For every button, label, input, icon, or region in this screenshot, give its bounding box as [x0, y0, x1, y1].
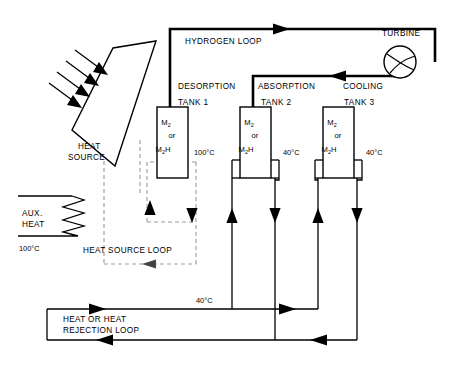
tank-3-species-bottom-suffix: H — [331, 145, 336, 154]
tank-3-contents-label: M2 or M2H — [322, 118, 342, 155]
rejection-inlet-temperature: 40°C — [196, 296, 213, 305]
svg-text:M2H: M2H — [322, 145, 337, 155]
heat-rejection-loop-label-line1: HEAT OR HEAT — [63, 315, 126, 324]
tank-1-name: TANK 1 — [178, 98, 209, 107]
heat-rejection-loop-label-line2: REJECTION LOOP — [63, 326, 140, 335]
svg-text:M2: M2 — [161, 118, 170, 128]
tank-2-contents-label: M2 or M2H — [239, 118, 259, 155]
tank-3-process-label: COOLING — [343, 82, 383, 91]
tank-1-species-bottom-suffix: H — [165, 145, 170, 154]
heat-source-label-line2: SOURCE — [68, 153, 105, 162]
tank-1-temperature: 100°C — [194, 148, 215, 157]
diagram-text-layer: HYDROGEN LOOP TURBINE DESORPTION ABSORPT… — [0, 0, 463, 370]
tank-3-species-top-sub: 2 — [334, 122, 337, 128]
tank-3-temperature: 40°C — [366, 148, 383, 157]
tank-2-name: TANK 2 — [261, 98, 292, 107]
tank-1-species-top-sub: 2 — [168, 122, 171, 128]
tank-2-conjunction: or — [252, 131, 259, 140]
aux-heat-temperature: 100°C — [19, 244, 40, 253]
tank-1-conjunction: or — [169, 131, 176, 140]
aux-heat-label-line2: HEAT — [22, 220, 45, 229]
heat-source-loop-label: HEAT SOURCE LOOP — [83, 246, 172, 255]
tank-2-temperature: 40°C — [283, 148, 300, 157]
svg-text:M2H: M2H — [239, 145, 254, 155]
tank-1-process-label: DESORPTION — [178, 82, 236, 91]
tank-2-species-top-sub: 2 — [251, 122, 254, 128]
tank-1-contents-label: M2 or M2H — [156, 118, 176, 155]
svg-text:M2: M2 — [327, 118, 336, 128]
turbine-label: TURBINE — [382, 29, 421, 38]
heat-source-label-line1: HEAT — [78, 142, 101, 151]
hydrogen-loop-label: HYDROGEN LOOP — [185, 37, 262, 46]
svg-text:M2: M2 — [244, 118, 253, 128]
tank-3-name: TANK 3 — [344, 98, 375, 107]
tank-3-conjunction: or — [335, 131, 342, 140]
aux-heat-label-line1: AUX. — [22, 209, 43, 218]
process-flow-diagram: HYDROGEN LOOP TURBINE DESORPTION ABSORPT… — [0, 0, 463, 370]
svg-text:M2H: M2H — [156, 145, 171, 155]
tank-2-species-bottom-suffix: H — [248, 145, 253, 154]
tank-2-process-label: ABSORPTION — [258, 82, 315, 91]
